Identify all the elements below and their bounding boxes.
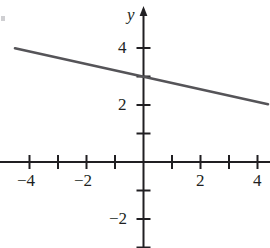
y-tick-label-2: 2 [118, 96, 127, 113]
y-axis-arrowhead-icon [140, 6, 148, 16]
plotted-line-series [15, 48, 268, 104]
x-tick-label-2: 2 [196, 172, 205, 189]
y-tick-label-4: 4 [118, 39, 127, 56]
x-tick-label-minus-4: −4 [17, 172, 35, 189]
y-tick-label-minus-2: −2 [109, 210, 127, 227]
y-axis-label: y [127, 6, 135, 23]
coordinate-plane-svg [0, 0, 270, 248]
x-tick-label-4: 4 [253, 172, 262, 189]
x-tick-label-minus-2: −2 [74, 172, 92, 189]
graph-canvas: y 4 2 −2 −4 −2 2 4 [0, 0, 270, 248]
